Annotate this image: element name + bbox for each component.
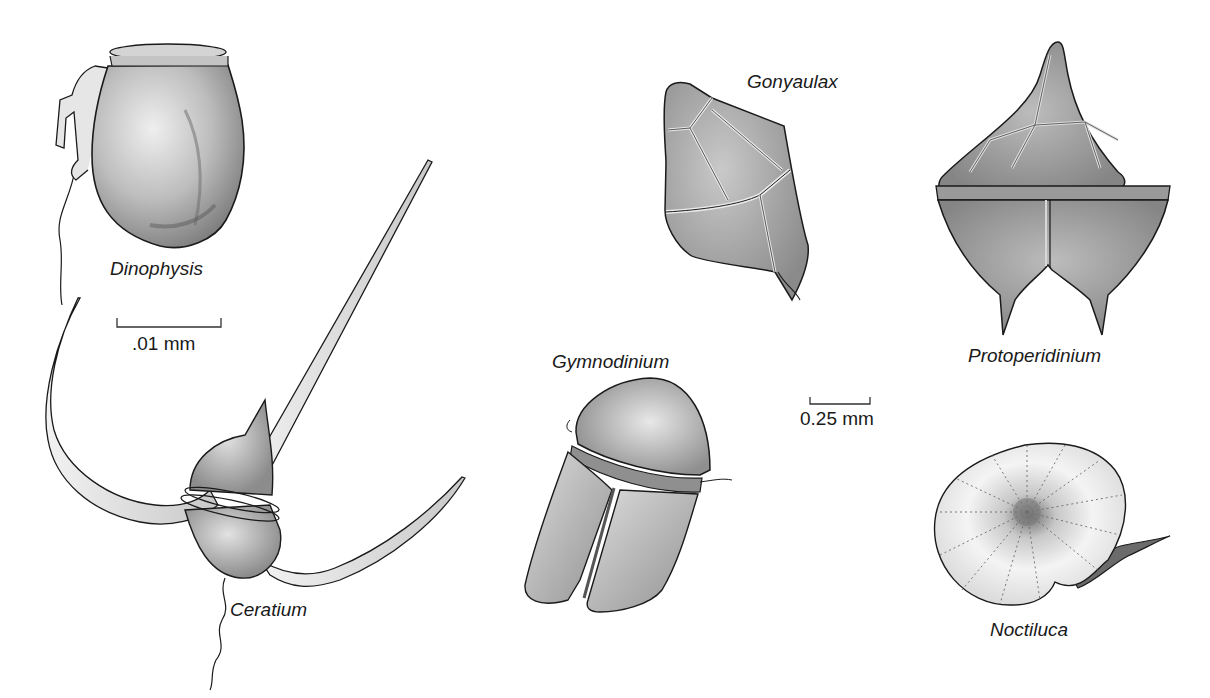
label-gonyaulax: Gonyaulax <box>747 71 838 93</box>
label-gymnodinium: Gymnodinium <box>552 351 669 373</box>
label-protoperidinium: Protoperidinium <box>968 345 1101 367</box>
dinoflagellate-plate: Dinophysis .01 mm Ceratium Gonyaulax Gym… <box>0 0 1210 698</box>
gonyaulax-drawing <box>664 82 808 300</box>
label-dinophysis: Dinophysis <box>110 258 203 280</box>
label-ceratium: Ceratium <box>230 599 307 621</box>
scale-bar-small <box>117 318 221 327</box>
protoperidinium-drawing <box>936 42 1170 335</box>
gymnodinium-drawing <box>525 378 732 612</box>
label-noctiluca: Noctiluca <box>990 619 1068 641</box>
scale-label-small: .01 mm <box>132 333 195 355</box>
scale-bar-large <box>810 397 870 404</box>
scale-label-large: 0.25 mm <box>800 408 874 430</box>
noctiluca-drawing <box>935 443 1170 605</box>
